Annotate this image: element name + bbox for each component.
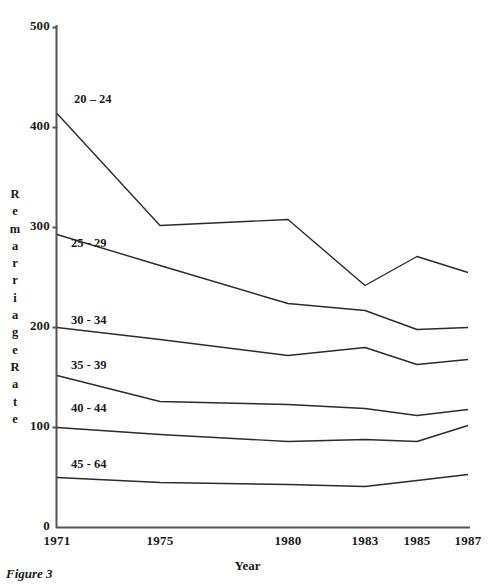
y-axis-title-letter: R [6,186,24,203]
y-axis-title: RemarriageRate [6,186,24,428]
y-tick-label-500: 500 [8,18,50,34]
series-line-20-24 [57,114,468,286]
y-axis-title-letter: a [6,307,24,324]
x-axis-title: Year [0,558,495,574]
y-axis-title-letter: t [6,394,24,411]
y-axis-title-letter: a [6,376,24,393]
y-tick-label-400: 400 [8,118,50,134]
series-label-45-64: 45 - 64 [71,457,106,472]
y-tick-label-0: 0 [8,518,50,534]
series-line-25-29 [57,235,468,330]
line-chart-canvas [0,0,495,587]
y-axis-title-letter: e [6,342,24,359]
y-axis-title-letter: m [6,221,24,238]
y-axis-title-letter: i [6,290,24,307]
y-axis-title-letter: e [6,203,24,220]
y-axis-title-letter: R [6,359,24,376]
series-label-20-24: 20 – 24 [74,92,112,107]
x-tick-label-1983: 1983 [337,533,393,549]
x-tick-label-1980: 1980 [260,533,316,549]
y-axis-title-letter: a [6,238,24,255]
y-axis-title-letter: g [6,324,24,341]
figure-caption: Figure 3 [6,566,53,582]
series-line-35-39 [57,376,468,416]
y-axis-title-letter: e [6,411,24,428]
y-axis-title-letter: r [6,272,24,289]
series-line-45-64 [57,475,468,487]
figure-3-chart: 500 400 300 200 100 0 RemarriageRate 197… [0,0,495,587]
series-label-35-39: 35 - 39 [71,358,106,373]
series-line-40-44 [57,426,468,442]
x-tick-label-1985: 1985 [389,533,445,549]
y-axis-title-letter: r [6,255,24,272]
data-series-group [57,114,468,487]
chart-axes [53,25,471,528]
series-line-30-34 [57,328,468,365]
x-tick-label-1971: 1971 [29,533,85,549]
series-label-25-29: 25 - 29 [71,236,106,251]
series-label-40-44: 40 - 44 [71,401,106,416]
x-tick-label-1975: 1975 [132,533,188,549]
series-label-30-34: 30 - 34 [71,313,106,328]
x-tick-label-1987: 1987 [440,533,495,549]
